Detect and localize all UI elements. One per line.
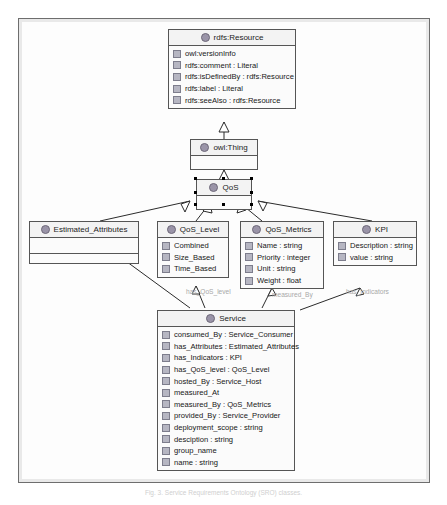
attribute-row[interactable]: rdfs:label : Literal: [169, 83, 295, 95]
owl-property-icon: [245, 265, 253, 273]
selection-handle-e[interactable]: [250, 191, 253, 194]
attribute-label: value : string: [350, 253, 393, 262]
attribute-row[interactable]: Name : string: [241, 240, 323, 252]
class-attributes-service: consumed_By : Service_Consumer has_Attri…: [158, 327, 294, 470]
owl-property-icon: [245, 242, 253, 250]
owl-property-icon: [162, 447, 170, 455]
attribute-label: has_Indicators : KPI: [174, 353, 242, 362]
class-box-qos-level[interactable]: QoS_Level Combined Size_Based Time_Based: [157, 221, 229, 278]
selection-handle-n[interactable]: [222, 177, 225, 180]
class-header-qos-level: QoS_Level: [158, 222, 228, 238]
attribute-row[interactable]: has_Indicators : KPI: [158, 352, 294, 364]
edge-label-has-indicators: has_Indicators: [346, 288, 389, 295]
attribute-row[interactable]: Priority : integer: [241, 252, 323, 264]
class-header-estimated-attributes: Estimated_Attributes: [30, 222, 138, 238]
owl-property-icon: [162, 435, 170, 443]
attribute-label: hosted_By : Service_Host: [174, 377, 261, 386]
attribute-label: has_Attributes : Estimated_Attributes: [174, 342, 299, 351]
owl-property-icon: [162, 342, 170, 350]
class-title-rdfs-resource: rdfs:Resource: [214, 33, 264, 42]
selection-handle-se[interactable]: [250, 203, 253, 206]
attribute-label: has_QoS_level : QoS_Level: [174, 365, 269, 374]
attribute-label: deployment_scope : string: [174, 423, 263, 432]
attribute-row[interactable]: measured_At: [158, 387, 294, 399]
class-box-rdfs-resource[interactable]: rdfs:Resource owl:versionInfo rdfs:comme…: [168, 29, 296, 109]
attribute-row[interactable]: owl:versionInfo: [169, 48, 295, 60]
owl-class-icon: [209, 183, 218, 192]
attribute-row[interactable]: Combined: [158, 240, 228, 252]
attribute-row[interactable]: rdfs:isDefinedBy : rdfs:Resource: [169, 71, 295, 83]
attribute-label: rdfs:label : Literal: [185, 84, 243, 93]
attribute-row[interactable]: consumed_By : Service_Consumer: [158, 329, 294, 341]
class-header-owl-thing: owl:Thing: [191, 140, 257, 156]
attribute-row[interactable]: provided_By : Service_Provider: [158, 410, 294, 422]
class-title-service: Service: [219, 314, 246, 323]
class-header-kpi: KPI: [334, 222, 416, 238]
owl-property-icon: [173, 50, 181, 58]
owl-property-icon: [162, 400, 170, 408]
attribute-row[interactable]: has_QoS_level : QoS_Level: [158, 364, 294, 376]
owl-property-icon: [173, 73, 181, 81]
attribute-label: rdfs:comment : Literal: [185, 61, 258, 70]
attribute-row[interactable]: has_Attributes : Estimated_Attributes: [158, 341, 294, 353]
class-attributes-qos-level: Combined Size_Based Time_Based: [158, 238, 228, 277]
attribute-label: measured_By : QoS_Metrics: [174, 400, 271, 409]
class-header-rdfs-resource: rdfs:Resource: [169, 30, 295, 46]
attribute-label: group_name: [174, 446, 217, 455]
owl-property-icon: [162, 253, 170, 261]
class-title-estimated-attributes: Estimated_Attributes: [54, 225, 128, 234]
attribute-label: Description : string: [350, 241, 413, 250]
owl-class-icon: [167, 225, 176, 234]
attribute-row[interactable]: Size_Based: [158, 252, 228, 264]
attribute-row[interactable]: deployment_scope : string: [158, 422, 294, 434]
class-header-qos: QoS: [197, 180, 251, 196]
owl-property-icon: [162, 331, 170, 339]
class-box-estimated-attributes[interactable]: Estimated_Attributes: [29, 221, 139, 264]
class-header-service: Service: [158, 311, 294, 327]
attribute-label: consumed_By : Service_Consumer: [174, 330, 293, 339]
selection-handle-sw[interactable]: [194, 203, 197, 206]
attribute-row[interactable]: name : string: [158, 457, 294, 469]
attribute-row[interactable]: rdfs:comment : Literal: [169, 60, 295, 72]
owl-property-icon: [338, 253, 346, 261]
selection-handle-ne[interactable]: [250, 177, 253, 180]
attribute-row[interactable]: Weight : float: [241, 275, 323, 287]
owl-property-icon: [162, 377, 170, 385]
owl-class-icon: [206, 314, 215, 323]
attribute-label: Name : string: [257, 241, 302, 250]
class-box-owl-thing[interactable]: owl:Thing: [190, 139, 258, 170]
attribute-label: rdfs:isDefinedBy : rdfs:Resource: [185, 72, 294, 81]
attribute-row[interactable]: desciption : string: [158, 433, 294, 445]
attribute-row[interactable]: value : string: [334, 252, 416, 264]
owl-property-icon: [173, 96, 181, 104]
attribute-label: Size_Based: [174, 253, 215, 262]
class-box-qos-metrics[interactable]: QoS_Metrics Name : string Priority : int…: [240, 221, 324, 289]
attribute-row[interactable]: Unit : string: [241, 263, 323, 275]
owl-property-icon: [245, 277, 253, 285]
selection-handle-w[interactable]: [194, 191, 197, 194]
attribute-label: provided_By : Service_Provider: [174, 411, 280, 420]
owl-class-icon: [200, 143, 209, 152]
class-box-kpi[interactable]: KPI Description : string value : string: [333, 221, 417, 266]
class-attributes-owl-thing: [191, 156, 257, 169]
attribute-row[interactable]: hosted_By : Service_Host: [158, 375, 294, 387]
class-title-qos: QoS: [222, 183, 238, 192]
attribute-row[interactable]: measured_By : QoS_Metrics: [158, 399, 294, 411]
attribute-row[interactable]: Description : string: [334, 240, 416, 252]
owl-class-icon: [201, 33, 210, 42]
class-box-service[interactable]: Service consumed_By : Service_Consumer h…: [157, 310, 295, 471]
attribute-label: Priority : integer: [257, 253, 310, 262]
edge-label-has-qos-level: has_QoS_level: [186, 288, 231, 295]
attribute-row[interactable]: group_name: [158, 445, 294, 457]
attribute-row[interactable]: Time_Based: [158, 263, 228, 275]
owl-class-icon: [41, 225, 50, 234]
owl-property-icon: [162, 458, 170, 466]
attribute-label: measured_At: [174, 388, 219, 397]
owl-property-icon: [162, 242, 170, 250]
owl-property-icon: [173, 85, 181, 93]
attribute-row[interactable]: rdfs:seeAlso : rdfs:Resource: [169, 94, 295, 106]
selection-handle-s[interactable]: [222, 203, 225, 206]
selection-handle-nw[interactable]: [194, 177, 197, 180]
attribute-label: Weight : float: [257, 276, 301, 285]
attribute-label: rdfs:seeAlso : rdfs:Resource: [185, 96, 280, 105]
